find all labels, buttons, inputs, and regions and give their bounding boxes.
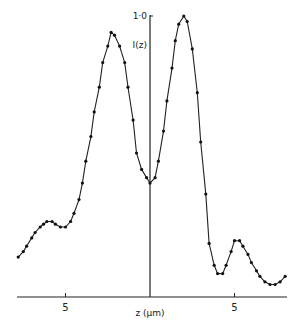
data-point [98, 86, 101, 89]
data-point [140, 168, 143, 171]
data-point [30, 236, 33, 239]
data-markers [17, 14, 287, 286]
data-point [204, 193, 207, 196]
data-point [284, 275, 287, 278]
data-point [135, 151, 138, 154]
data-point [221, 272, 224, 275]
x-axis-label: z (μm) [135, 308, 164, 318]
data-point [39, 225, 42, 228]
data-point [110, 31, 113, 34]
x-tick-label: 5 [231, 302, 237, 313]
data-point [145, 176, 148, 179]
data-point [165, 99, 168, 102]
data-point [225, 264, 228, 267]
x-tick-label: 5 [62, 302, 68, 313]
data-point [34, 231, 37, 234]
data-point [208, 242, 211, 245]
data-point [148, 182, 151, 185]
data-point [101, 61, 104, 64]
data-point [268, 283, 271, 286]
data-point [72, 212, 75, 215]
data-point [196, 91, 199, 94]
data-point [199, 140, 202, 143]
data-point [191, 47, 194, 50]
data-point [64, 225, 67, 228]
intensity-curve [18, 16, 285, 285]
data-point [93, 110, 96, 113]
data-point [17, 256, 20, 259]
data-point [45, 220, 48, 223]
y-axis-label: I(z) [133, 40, 147, 50]
data-point [241, 245, 244, 248]
data-point [182, 14, 185, 17]
data-point [274, 283, 277, 286]
data-point [113, 34, 116, 37]
data-point [118, 45, 121, 48]
data-point [238, 239, 241, 242]
data-point [123, 61, 126, 64]
data-point [25, 245, 28, 248]
data-point [22, 250, 25, 253]
data-point [42, 223, 45, 226]
data-point [59, 225, 62, 228]
data-point [216, 272, 219, 275]
data-point [230, 250, 233, 253]
data-point [177, 23, 180, 26]
data-point [89, 135, 92, 138]
data-point [77, 198, 80, 201]
data-point [255, 269, 258, 272]
data-point [162, 130, 165, 133]
intensity-chart: 1·0 I(z) 55 z (μm) [0, 0, 297, 325]
data-point [106, 45, 109, 48]
data-point [233, 239, 236, 242]
data-point [50, 220, 53, 223]
data-point [132, 119, 135, 122]
data-point [279, 280, 282, 283]
data-point [174, 39, 177, 42]
data-point [69, 220, 72, 223]
data-point [263, 280, 266, 283]
data-point [258, 275, 261, 278]
data-point [170, 67, 173, 70]
y-max-label: 1·0 [133, 11, 148, 21]
data-point [126, 86, 129, 89]
data-point [250, 261, 253, 264]
data-point [186, 20, 189, 23]
data-point [154, 176, 157, 179]
data-point [157, 160, 160, 163]
data-point [81, 182, 84, 185]
data-point [54, 223, 57, 226]
data-point [213, 264, 216, 267]
data-point [84, 160, 87, 163]
data-point [246, 253, 249, 256]
